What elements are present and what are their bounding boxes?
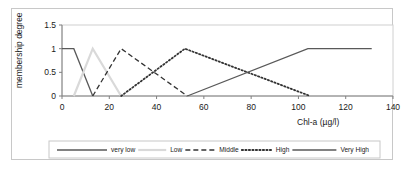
x-tick-label: 140: [386, 102, 400, 112]
y-tick-label: 1.5: [44, 20, 56, 30]
x-tick-label: 80: [246, 102, 256, 112]
x-tick-label: 60: [199, 102, 209, 112]
x-axis-title: Chl-a (µg/l): [297, 117, 339, 127]
x-tick-label: 20: [105, 102, 115, 112]
y-axis-title: membership degree: [14, 12, 24, 88]
y-axis-ticks: 00.511.5: [44, 20, 62, 101]
chart-figure: 00.511.5 020406080100120140 membership d…: [0, 0, 419, 178]
legend-label-low: Low: [170, 146, 182, 153]
legend-label-high: High: [276, 146, 290, 154]
x-tick-label: 40: [152, 102, 162, 112]
chart-legend: very lowLowMiddleHighVery High: [49, 141, 380, 158]
membership-function-chart: 00.511.5 020406080100120140 membership d…: [0, 0, 419, 178]
plot-border: [62, 25, 393, 96]
legend-label-middle: Middle: [219, 146, 239, 153]
legend-label-very-high: Very High: [340, 146, 369, 154]
x-axis-ticks: 020406080100120140: [60, 96, 401, 112]
x-tick-label: 0: [60, 102, 65, 112]
x-tick-label: 120: [339, 102, 353, 112]
legend-label-very-low: very low: [111, 146, 135, 154]
y-tick-label: 0.5: [44, 67, 56, 77]
plot-area: [62, 25, 393, 96]
y-tick-label: 0: [51, 91, 56, 101]
y-tick-label: 1: [51, 44, 56, 54]
x-tick-label: 100: [291, 102, 305, 112]
